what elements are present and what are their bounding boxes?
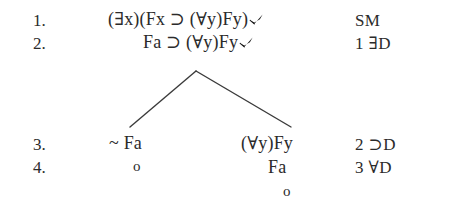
justification-line-3: 2 ⊃D (355, 136, 396, 153)
formula-line-4-right-branch: Fa (268, 158, 286, 176)
closure-mark-right-branch: o (283, 184, 291, 199)
line-number-4: 4. (33, 159, 46, 176)
justification-line-2: 1 ∃D (355, 35, 391, 52)
check-icon-line-2 (239, 36, 254, 50)
justification-line-1: SM (355, 12, 380, 29)
closure-mark-left-branch: o (133, 159, 141, 174)
formula-line-2: Fa ⊃ (∀y)Fy (143, 33, 254, 51)
check-icon-line-1 (249, 13, 264, 27)
formula-line-1-text: (∃x)(Fx ⊃ (∀y)Fy) (108, 9, 248, 29)
line-number-1: 1. (33, 12, 46, 29)
formula-line-3-right-branch: (∀y)Fy (241, 134, 293, 152)
formula-line-2-text: Fa ⊃ (∀y)Fy (143, 32, 238, 52)
line-number-2: 2. (33, 35, 46, 52)
formula-line-1: (∃x)(Fx ⊃ (∀y)Fy) (108, 10, 264, 28)
branch-line-left (130, 71, 196, 127)
branch-line-right (196, 71, 291, 127)
justification-line-4: 3 ∀D (355, 159, 392, 176)
line-number-3: 3. (33, 136, 46, 153)
